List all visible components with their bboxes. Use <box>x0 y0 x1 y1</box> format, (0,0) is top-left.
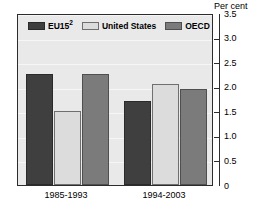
bar-chart: Per cent 00.51.01.52.02.53.03.5 1985-199… <box>0 0 265 211</box>
plot-area <box>17 14 213 186</box>
chart-legend: EU152United StatesOECD <box>28 21 210 31</box>
y-axis-line <box>219 14 220 186</box>
legend-item[interactable]: OECD <box>165 21 210 31</box>
legend-item[interactable]: EU152 <box>28 21 73 31</box>
bar <box>54 111 81 185</box>
legend-swatch-icon <box>28 22 45 30</box>
legend-label: United States <box>102 21 156 31</box>
bar <box>180 89 207 185</box>
bar <box>82 74 109 185</box>
y-axis-tick-label: 1.0 <box>224 132 237 141</box>
y-axis-tick-label: 1.5 <box>224 108 237 117</box>
legend-footnote-marker: 2 <box>69 19 73 26</box>
y-axis-tick-label: 0.5 <box>224 157 237 166</box>
legend-swatch-icon <box>165 22 182 30</box>
legend-item[interactable]: United States <box>82 21 156 31</box>
y-axis-tick <box>214 137 219 138</box>
bar <box>26 74 53 185</box>
y-axis-tick <box>214 161 219 162</box>
y-axis-tick-label: 0 <box>224 182 229 191</box>
y-axis-tick-label: 2.5 <box>224 59 237 68</box>
y-axis-tick <box>214 112 219 113</box>
y-axis-tick <box>214 39 219 40</box>
bar <box>152 84 179 185</box>
y-axis-tick <box>214 63 219 64</box>
y-axis-tick-label: 2.0 <box>224 83 237 92</box>
legend-label: OECD <box>185 21 210 31</box>
y-axis-tick-label: 3.0 <box>224 34 237 43</box>
x-axis-category-label: 1985-1993 <box>17 190 115 200</box>
bars-layer <box>18 15 212 185</box>
y-axis-tick <box>214 88 219 89</box>
legend-swatch-icon <box>82 22 99 30</box>
legend-label: EU152 <box>48 21 73 31</box>
y-axis-tick-label: 3.5 <box>224 10 237 19</box>
x-axis-category-label: 1994-2003 <box>115 190 213 200</box>
bar <box>124 101 151 185</box>
